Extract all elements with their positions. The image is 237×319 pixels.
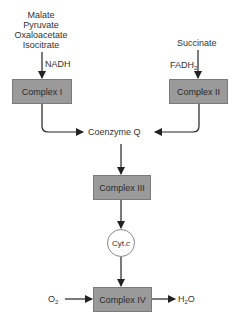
substrate-isocitrate: Isocitrate	[0, 40, 82, 50]
substrate-oxaloacetate: Oxaloacetate	[0, 30, 82, 40]
complex-ii-box: Complex II	[169, 79, 228, 104]
complex-i-box: Complex I	[12, 79, 72, 104]
fadh2-label: FADH2	[170, 60, 197, 70]
complex-iv-box: Complex IV	[93, 287, 152, 312]
nadh-substrates: Malate Pyruvate Oxaloacetate Isocitrate	[0, 10, 82, 50]
substrate-malate: Malate	[0, 10, 82, 20]
nadh-label: NADH	[45, 59, 71, 69]
water-label: H2O	[178, 294, 195, 304]
coenzyme-q-label: Coenzyme Q	[88, 127, 141, 137]
succinate-label: Succinate	[177, 38, 217, 48]
substrate-pyruvate: Pyruvate	[0, 20, 82, 30]
complex1-to-coq-arrow	[42, 103, 83, 132]
cytochrome-c-circle: Cyt. c	[107, 229, 135, 257]
complex-iii-box: Complex III	[93, 175, 151, 200]
oxygen-label: O2	[48, 294, 58, 304]
complex2-to-coq-arrow	[155, 103, 199, 132]
